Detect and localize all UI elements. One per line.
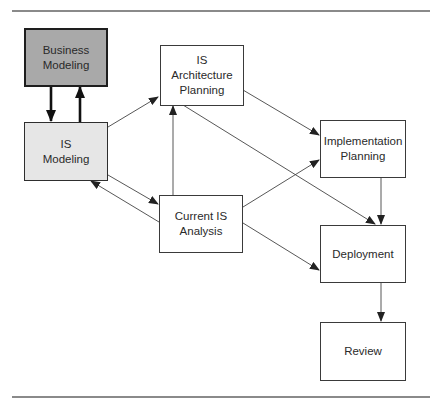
node-label: Business Modeling xyxy=(43,43,90,73)
node-label: Current IS Analysis xyxy=(175,209,227,239)
node-label: Implementation Planning xyxy=(324,134,403,164)
edge-is-modeling-to-current-analysis xyxy=(108,175,158,204)
edge-architecture-to-implementation xyxy=(243,90,319,135)
node-business-modeling: Business Modeling xyxy=(24,28,108,87)
node-label: IS Architecture Planning xyxy=(171,53,232,98)
node-is-modeling: IS Modeling xyxy=(24,122,108,181)
edge-current-analysis-to-implementation xyxy=(243,160,319,207)
node-is-architecture-planning: IS Architecture Planning xyxy=(160,45,244,106)
node-current-is-analysis: Current IS Analysis xyxy=(159,195,243,253)
node-implementation-planning: Implementation Planning xyxy=(320,120,406,178)
node-review: Review xyxy=(320,322,406,381)
node-label: Deployment xyxy=(332,247,393,262)
edge-is-modeling-to-architecture xyxy=(108,97,158,127)
node-label: Review xyxy=(344,344,382,359)
node-deployment: Deployment xyxy=(320,225,406,283)
edge-current-analysis-to-is-modeling xyxy=(91,181,159,222)
node-label: IS Modeling xyxy=(43,137,90,167)
edge-current-analysis-to-deployment xyxy=(243,223,319,270)
